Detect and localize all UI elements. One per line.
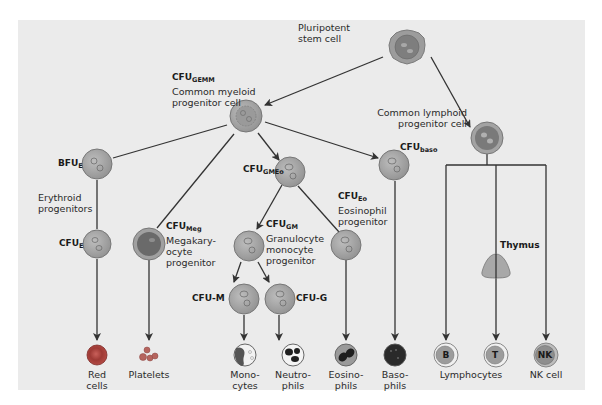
b-cell-letter: B bbox=[440, 350, 452, 361]
stem-cell-label: Pluripotentstem cell bbox=[298, 22, 350, 44]
pluripotent-stem-cell-icon bbox=[389, 30, 425, 64]
common-lymphoid-label: Common lymphoidprogenitor cell bbox=[375, 107, 467, 129]
red-cell-icon bbox=[87, 345, 107, 365]
cfu-e-label: CFUE bbox=[59, 238, 84, 252]
nk-cell-letter: NK bbox=[536, 350, 554, 361]
cfu-e-cell-icon bbox=[83, 230, 111, 258]
cfu-meg-label: CFUMeg Megakary-ocyteprogenitor bbox=[166, 221, 216, 268]
cfu-m-cell-icon bbox=[229, 284, 259, 314]
cfu-g-cell-icon bbox=[265, 284, 295, 314]
cfu-baso-label: CFUbaso bbox=[400, 142, 437, 156]
bfu-e-cell-icon bbox=[82, 149, 112, 179]
cfu-eo-cell-icon bbox=[331, 230, 361, 260]
output-label-nk-cell: NK cell bbox=[520, 369, 572, 380]
thymus-label: Thymus bbox=[500, 240, 540, 251]
cfu-m-label: CFU-M bbox=[192, 293, 225, 304]
eosinophil-icon bbox=[335, 344, 357, 366]
neutrophil-icon bbox=[282, 344, 304, 366]
platelets-icon bbox=[140, 347, 159, 361]
output-label-lymphocytes: Lymphocytes bbox=[436, 369, 506, 380]
output-label-red-cells: Redcells bbox=[77, 369, 117, 391]
output-label-monocytes: Mono-cytes bbox=[222, 369, 268, 391]
output-label-neutrophils: Neutro-phils bbox=[270, 369, 316, 391]
common-lymphoid-progenitor-cell-icon bbox=[471, 122, 503, 154]
cfu-gm-label: CFUGM Granulocytemonocyteprogenitor bbox=[266, 219, 324, 266]
output-label-basophils: Baso-phils bbox=[372, 369, 418, 391]
cfu-gmeo-label: CFUGMEo bbox=[243, 164, 284, 178]
basophil-icon bbox=[384, 344, 406, 366]
cfu-eo-label: CFUEo Eosinophilprogenitor bbox=[338, 191, 388, 227]
output-label-eosinophils: Eosino-phils bbox=[323, 369, 369, 391]
bfu-e-label: BFUE bbox=[58, 158, 83, 172]
monocyte-icon bbox=[234, 344, 256, 366]
cfu-meg-cell-icon bbox=[133, 228, 165, 260]
cfu-g-label: CFU-G bbox=[296, 293, 327, 304]
cfu-gemm-label: CFUGEMM Common myeloidprogenitor cell bbox=[172, 72, 256, 108]
erythroid-progenitors-label: Erythroidprogenitors bbox=[38, 192, 92, 214]
t-cell-letter: T bbox=[489, 350, 501, 361]
cfu-gm-cell-icon bbox=[234, 231, 264, 261]
output-label-platelets: Platelets bbox=[124, 369, 174, 380]
